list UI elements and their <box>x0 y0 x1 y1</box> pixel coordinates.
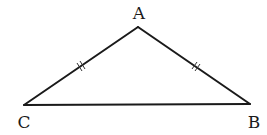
vertex-label-c: C <box>17 112 30 132</box>
edge-cb <box>24 104 250 105</box>
vertex-label-b: B <box>248 112 261 132</box>
vertex-label-a: A <box>132 3 146 23</box>
edge-ac <box>24 27 138 105</box>
triangle-diagram: A B C <box>0 0 267 135</box>
